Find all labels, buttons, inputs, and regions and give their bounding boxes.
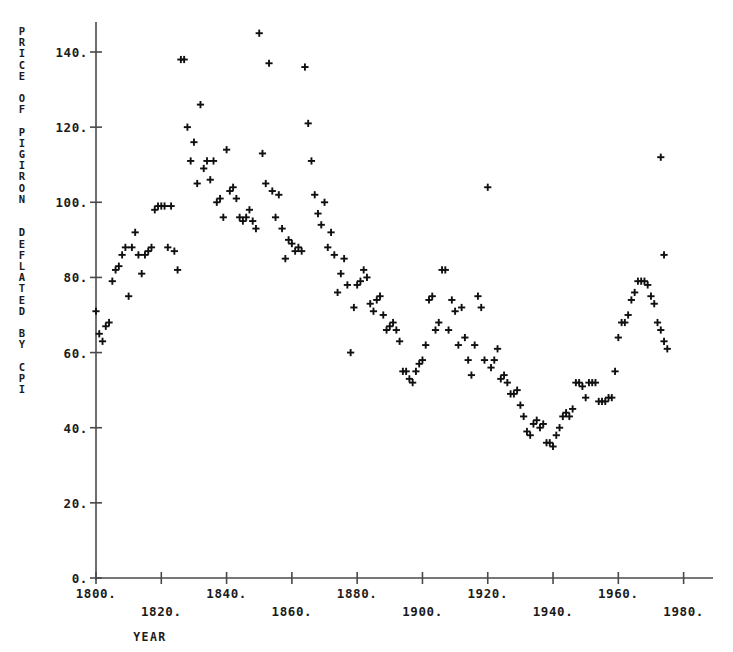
data-point <box>314 210 321 217</box>
data-point <box>301 63 308 70</box>
data-point <box>520 413 527 420</box>
data-point <box>363 274 370 281</box>
data-point <box>128 244 135 251</box>
data-point <box>569 405 576 412</box>
data-point <box>265 60 272 67</box>
data-point <box>582 394 589 401</box>
data-point <box>184 124 191 131</box>
data-point <box>396 338 403 345</box>
data-point <box>109 278 116 285</box>
data-point <box>256 30 263 37</box>
data-point <box>197 101 204 108</box>
data-point <box>282 255 289 262</box>
data-point <box>249 217 256 224</box>
data-point <box>167 202 174 209</box>
data-point <box>135 251 142 258</box>
data-point <box>272 214 279 221</box>
data-point <box>628 296 635 303</box>
data-point <box>233 195 240 202</box>
data-point <box>171 248 178 255</box>
data-point <box>311 191 318 198</box>
data-point <box>360 266 367 273</box>
data-point <box>422 341 429 348</box>
pigiron-price-scatter-figure: PRICE OF PIGIRON DEFLATED BY CPI 0.20.40… <box>0 0 733 652</box>
data-point <box>657 326 664 333</box>
data-point <box>487 364 494 371</box>
data-point <box>164 244 171 251</box>
data-point <box>125 293 132 300</box>
data-point <box>341 255 348 262</box>
data-point <box>308 157 315 164</box>
data-point <box>517 402 524 409</box>
data-point <box>350 304 357 311</box>
data-point <box>200 165 207 172</box>
data-point <box>132 229 139 236</box>
data-point <box>174 266 181 273</box>
data-points <box>92 30 670 450</box>
data-point <box>203 157 210 164</box>
data-point <box>278 225 285 232</box>
data-point <box>556 424 563 431</box>
data-point <box>455 341 462 348</box>
data-point <box>465 356 472 363</box>
data-point <box>190 139 197 146</box>
axes <box>90 22 713 584</box>
data-point <box>461 334 468 341</box>
data-point <box>187 157 194 164</box>
data-point <box>122 244 129 251</box>
data-point <box>651 300 658 307</box>
data-point <box>468 372 475 379</box>
data-point <box>210 157 217 164</box>
data-point <box>448 296 455 303</box>
data-point <box>615 334 622 341</box>
data-point <box>275 191 282 198</box>
data-point <box>138 270 145 277</box>
data-point <box>452 308 459 315</box>
data-point <box>504 379 511 386</box>
data-point <box>99 338 106 345</box>
data-point <box>252 225 259 232</box>
data-point <box>478 304 485 311</box>
data-point <box>370 308 377 315</box>
data-point <box>347 349 354 356</box>
data-point <box>445 326 452 333</box>
data-point <box>331 251 338 258</box>
data-point <box>664 345 671 352</box>
data-point <box>305 120 312 127</box>
data-point <box>631 289 638 296</box>
scatter-plot-canvas <box>0 0 733 652</box>
data-point <box>657 154 664 161</box>
data-point <box>246 206 253 213</box>
data-point <box>647 293 654 300</box>
data-point <box>324 244 331 251</box>
data-point <box>262 180 269 187</box>
data-point <box>484 184 491 191</box>
data-point <box>474 293 481 300</box>
data-point <box>269 187 276 194</box>
data-point <box>321 199 328 206</box>
data-point <box>471 341 478 348</box>
data-point <box>432 326 439 333</box>
data-point <box>660 338 667 345</box>
data-point <box>119 251 126 258</box>
data-point <box>194 180 201 187</box>
data-point <box>611 368 618 375</box>
data-point <box>458 304 465 311</box>
data-point <box>207 176 214 183</box>
data-point <box>393 326 400 333</box>
data-point <box>654 319 661 326</box>
data-point <box>412 368 419 375</box>
data-point <box>259 150 266 157</box>
data-point <box>223 146 230 153</box>
data-point <box>491 356 498 363</box>
data-point <box>344 281 351 288</box>
data-point <box>318 221 325 228</box>
data-point <box>553 432 560 439</box>
data-point <box>337 270 344 277</box>
data-point <box>494 345 501 352</box>
data-point <box>660 251 667 258</box>
data-point <box>625 311 632 318</box>
data-point <box>435 319 442 326</box>
data-point <box>380 311 387 318</box>
data-point <box>92 308 99 315</box>
